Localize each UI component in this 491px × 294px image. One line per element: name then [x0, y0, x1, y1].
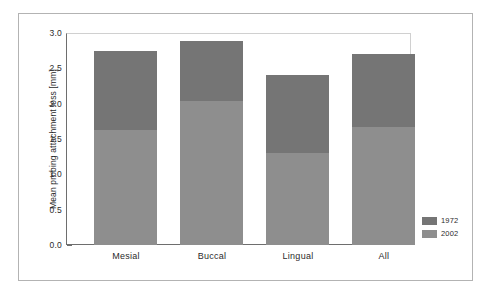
legend-item-1972[interactable]: 1972	[422, 216, 459, 226]
y-axis-tick-labels: 3.0 2.5 2.0 1.5 1.0 0.5 0.0	[36, 33, 62, 245]
x-tick-label-mesial: Mesial	[90, 252, 162, 261]
bar-buccal[interactable]	[180, 41, 243, 245]
legend-item-2002[interactable]: 2002	[422, 229, 459, 239]
bar-segment-2002[interactable]	[180, 101, 243, 245]
bars-layer	[67, 34, 411, 245]
bar-segment-1972[interactable]	[352, 54, 415, 127]
bar-segment-2002[interactable]	[266, 153, 329, 245]
bar-all[interactable]	[352, 54, 415, 245]
y-tick-major	[67, 245, 72, 246]
bar-segment-2002[interactable]	[94, 130, 157, 245]
bar-segment-1972[interactable]	[266, 75, 329, 153]
y-tick-label: 0.0	[50, 241, 62, 250]
x-axis-tick-labels: Mesial Buccal Lingual All	[67, 252, 411, 268]
y-tick-label: 3.0	[50, 29, 62, 38]
legend-label-2002: 2002	[441, 230, 459, 238]
bar-lingual[interactable]	[266, 75, 329, 245]
chart-figure: Mean probing attachment loss [mm] 3.0 2.…	[0, 0, 491, 294]
legend-swatch-2002	[422, 230, 437, 238]
legend-swatch-1972	[422, 217, 437, 225]
legend-label-1972: 1972	[441, 217, 459, 225]
x-tick-label-lingual: Lingual	[262, 252, 334, 261]
bar-segment-1972[interactable]	[94, 51, 157, 130]
x-tick-label-all: All	[348, 252, 420, 261]
y-tick-label: 2.0	[50, 100, 62, 109]
y-tick-label: 1.0	[50, 170, 62, 179]
bar-mesial[interactable]	[94, 51, 157, 245]
chart-legend: 1972 2002	[422, 216, 472, 242]
bar-segment-2002[interactable]	[352, 127, 415, 245]
y-tick-label: 1.5	[50, 135, 62, 144]
y-tick-label: 2.5	[50, 64, 62, 73]
y-tick-label: 0.5	[50, 206, 62, 215]
x-tick-label-buccal: Buccal	[176, 252, 248, 261]
bar-segment-1972[interactable]	[180, 41, 243, 101]
